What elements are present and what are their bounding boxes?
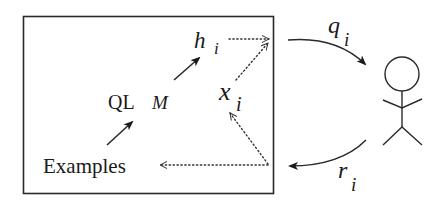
svg-text:q: q: [328, 12, 340, 38]
example-x-label: x i: [218, 77, 242, 115]
dotted-arrow-response-to-example: [230, 113, 268, 164]
svg-text:QL: QL: [108, 91, 135, 113]
svg-text:i: i: [344, 29, 349, 50]
svg-text:i: i: [236, 93, 242, 115]
svg-text:i: i: [351, 174, 356, 195]
examples-label: Examples: [43, 154, 126, 178]
svg-text:M: M: [151, 92, 169, 113]
dotted-arrow-example-out: [236, 43, 268, 80]
query-arrow: [288, 40, 365, 65]
user-legs: [383, 127, 422, 145]
hypothesis-label: h i: [194, 28, 219, 58]
response-arrow: [290, 140, 366, 166]
user-stick-figure-icon: [383, 57, 422, 145]
learner-label: QL M: [108, 91, 169, 113]
response-label: r i: [338, 157, 356, 195]
svg-text:i: i: [214, 39, 219, 58]
arrow-examples-to-learner: [107, 122, 132, 145]
svg-text:x: x: [218, 77, 231, 106]
user-head: [385, 57, 419, 91]
svg-text:r: r: [338, 157, 348, 183]
arrow-learner-to-hypothesis: [174, 58, 199, 80]
diagram-canvas: Examples QL M h i x i q i r i: [0, 0, 446, 203]
svg-text:h: h: [194, 28, 206, 53]
